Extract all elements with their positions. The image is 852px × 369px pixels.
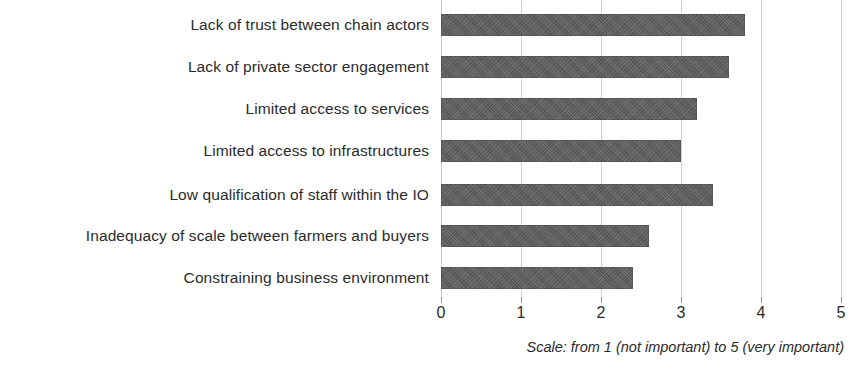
bar (441, 140, 681, 162)
bar (441, 267, 633, 289)
x-tick-label: 3 (666, 303, 696, 323)
category-label: Constraining business environment (0, 269, 429, 287)
x-tick-label: 1 (506, 303, 536, 323)
category-label: Lack of private sector engagement (0, 58, 429, 76)
bar (441, 56, 729, 78)
plot-area (441, 0, 842, 297)
category-label: Limited access to services (0, 100, 429, 118)
x-tick-label: 2 (586, 303, 616, 323)
bar (441, 184, 713, 206)
horizontal-bar-chart: Lack of trust between chain actors Lack … (0, 0, 852, 369)
x-tick-label: 0 (426, 303, 456, 323)
gridline-3 (681, 0, 682, 297)
x-tick-label: 5 (826, 303, 852, 323)
category-label-column: Lack of trust between chain actors Lack … (0, 0, 437, 297)
category-label: Lack of trust between chain actors (0, 16, 429, 34)
scale-caption: Scale: from 1 (not important) to 5 (very… (0, 339, 844, 355)
category-label: Limited access to infrastructures (0, 142, 429, 160)
x-tick-label: 4 (746, 303, 776, 323)
bar (441, 225, 649, 247)
gridline-4 (761, 0, 762, 297)
bar (441, 14, 745, 36)
bar (441, 98, 697, 120)
gridline-5 (841, 0, 842, 297)
category-label: Inadequacy of scale between farmers and … (0, 227, 429, 245)
category-label: Low qualification of staff within the IO (0, 186, 429, 204)
